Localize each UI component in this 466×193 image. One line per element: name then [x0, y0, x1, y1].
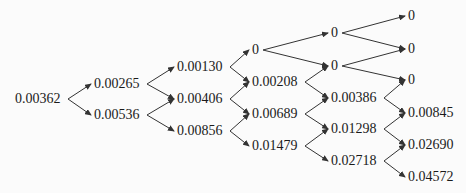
branch-arrow	[384, 145, 405, 161]
branch-arrow	[384, 113, 405, 129]
branch-arrow	[305, 82, 328, 98]
tree-node: 0.00362	[15, 91, 61, 107]
branch-arrow	[68, 99, 91, 115]
branch-arrow	[342, 33, 405, 49]
branch-arrow	[384, 80, 405, 98]
tree-node: 0.01298	[331, 121, 377, 137]
tree-node: 0.00208	[252, 74, 298, 90]
tree-node: 0	[331, 58, 338, 74]
branch-arrow	[230, 82, 249, 99]
branch-arrow	[305, 98, 328, 114]
branch-arrow	[147, 84, 174, 99]
tree-node: 0.00265	[94, 76, 140, 92]
branch-arrow	[230, 131, 249, 146]
tree-node: 0.00856	[177, 123, 223, 139]
tree-node: 0	[408, 41, 415, 57]
branch-arrow	[305, 129, 328, 146]
branch-arrow	[384, 161, 405, 177]
branch-arrow	[342, 49, 405, 66]
branch-arrow	[68, 84, 91, 99]
binomial-tree-diagram: 0.003620.002650.005360.001300.004060.008…	[0, 0, 466, 193]
tree-node: 0	[408, 72, 415, 88]
tree-node: 0.02690	[408, 137, 454, 153]
tree-arrows	[0, 0, 466, 193]
branch-arrow	[263, 50, 328, 66]
branch-arrow	[147, 99, 174, 115]
branch-arrow	[230, 99, 249, 114]
tree-node: 0.00845	[408, 105, 454, 121]
branch-arrow	[384, 98, 405, 113]
tree-node: 0.00689	[252, 106, 298, 122]
tree-node: 0.00536	[94, 107, 140, 123]
branch-arrow	[305, 146, 328, 161]
branch-arrow	[342, 16, 405, 33]
branch-arrow	[230, 67, 249, 82]
tree-node: 0.00406	[177, 91, 223, 107]
tree-node: 0	[252, 42, 259, 58]
tree-node: 0.04572	[408, 169, 454, 185]
branch-arrow	[305, 66, 328, 82]
tree-node: 0.01479	[252, 138, 298, 154]
branch-arrow	[230, 114, 249, 131]
tree-node: 0.00386	[331, 90, 377, 106]
branch-arrow	[342, 66, 405, 80]
branch-arrow	[384, 129, 405, 145]
branch-arrow	[147, 115, 174, 131]
branch-arrow	[263, 33, 328, 50]
tree-node: 0.02718	[331, 153, 377, 169]
branch-arrow	[147, 67, 174, 84]
tree-node: 0	[408, 8, 415, 24]
tree-node: 0	[331, 25, 338, 41]
branch-arrow	[305, 114, 328, 129]
branch-arrow	[230, 50, 249, 67]
tree-node: 0.00130	[177, 59, 223, 75]
